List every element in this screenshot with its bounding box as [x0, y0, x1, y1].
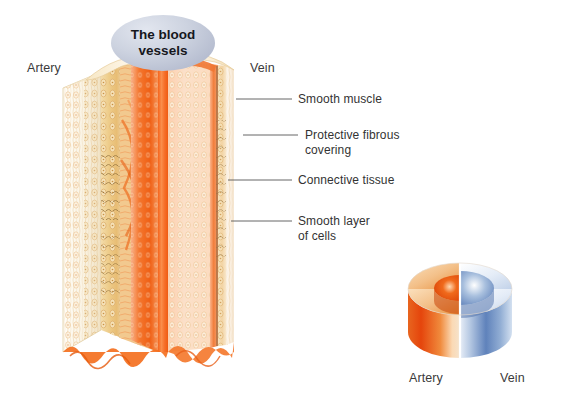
artery-lumen [158, 60, 168, 352]
callout-label-protective-fibrous-covering: Protective fibrous covering [305, 128, 400, 158]
callout-label-smooth-layer-of-cells: Smooth layer of cells [298, 214, 370, 244]
artery-illustration [63, 57, 168, 369]
title-badge-text: The blood vessels [131, 27, 196, 59]
title-badge: The blood vessels [111, 15, 215, 71]
callout-label-smooth-muscle: Smooth muscle [298, 92, 382, 107]
inset-artery-label: Artery [409, 371, 443, 386]
blood-vessels-figure: The blood vessels Artery Vein Smooth mus… [0, 0, 561, 412]
vein-label-main: Vein [250, 61, 275, 76]
callout-label-connective-tissue: Connective tissue [298, 173, 394, 188]
inset-vein-label: Vein [500, 371, 525, 386]
inset-cylinder-diagram [408, 263, 512, 358]
artery-label-main: Artery [27, 61, 61, 76]
illustration-canvas [0, 0, 561, 412]
vein-illustration [168, 54, 234, 366]
